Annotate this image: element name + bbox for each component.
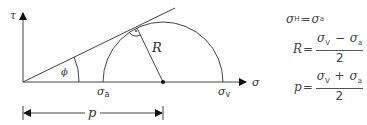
sigma-a-label: σa (97, 85, 110, 99)
numerator: σV − σa (316, 32, 363, 51)
radius-label: R (151, 40, 162, 55)
sigma-axis-label: σ (252, 76, 260, 89)
numerator: σV + σa (316, 70, 363, 89)
mohr-semicircle (103, 22, 223, 82)
equals: = (303, 80, 313, 94)
subscript: a (320, 15, 324, 23)
denominator: 2 (336, 89, 344, 103)
formula-r: R = σV − σa 2 (293, 32, 363, 65)
fraction: σV + σa 2 (316, 70, 363, 103)
formula-p: p = σV + σa 2 (294, 70, 363, 103)
sigma-symbol: σ (286, 12, 294, 26)
subscript: H (294, 15, 299, 23)
equals: = (300, 12, 310, 26)
sigma-v-label: σv (218, 85, 231, 99)
right-angle-marker-icon (129, 32, 140, 36)
formula-sigma-h: σH = σa (286, 12, 324, 26)
fraction: σV − σa 2 (316, 32, 363, 65)
denominator: 2 (336, 51, 344, 65)
angle-phi-arc (74, 57, 79, 82)
r-symbol: R (293, 42, 302, 56)
equals: = (303, 42, 313, 56)
p-dimension-label: p (88, 105, 97, 120)
tau-axis-label: τ (10, 9, 17, 22)
phi-label: ϕ (61, 66, 68, 77)
sigma-symbol: σ (312, 12, 320, 26)
p-symbol: p (294, 80, 302, 94)
radius-line (137, 28, 163, 82)
center-point (161, 80, 165, 84)
